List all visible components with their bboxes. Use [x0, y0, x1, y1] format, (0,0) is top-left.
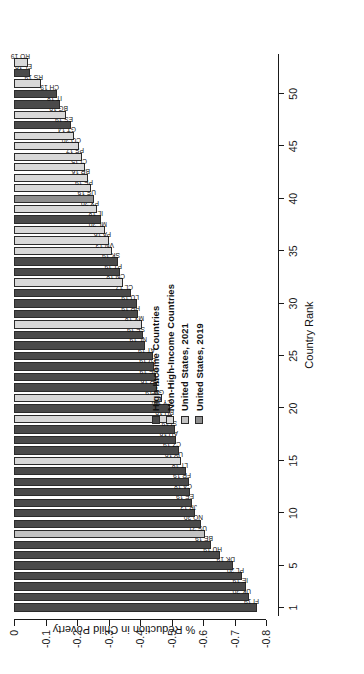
legend-label: United States, 2021 — [179, 323, 190, 411]
x-axis-tick — [278, 145, 284, 146]
bar-rect — [14, 331, 143, 339]
bar-rect — [14, 310, 138, 318]
bar-rect — [14, 457, 181, 465]
bar-rect — [14, 603, 257, 611]
x-axis-line — [278, 54, 279, 616]
legend-item-nonhigh: Non-High-Income Countries — [165, 284, 176, 424]
bar-rect — [14, 394, 162, 402]
legend-swatch-icon — [181, 416, 189, 424]
x-axis-tick — [278, 512, 284, 513]
x-axis-tick-label: 25 — [287, 350, 299, 362]
bar-rect — [14, 289, 131, 297]
bar-label: CH 19 — [40, 84, 59, 91]
x-axis-tick-label: 5 — [287, 563, 299, 569]
bar-label: RO 19 — [11, 53, 30, 60]
x-axis-title: Country Rank — [303, 54, 315, 616]
x-axis-tick — [278, 460, 284, 461]
bar-rect — [14, 341, 145, 349]
bar-rect — [14, 404, 170, 412]
x-axis-tick — [278, 607, 284, 608]
bar-rect — [14, 562, 233, 570]
bar-rect — [14, 299, 137, 307]
x-axis-tick — [278, 407, 284, 408]
bar-rect — [14, 320, 142, 328]
bar-rect — [14, 383, 157, 391]
x-axis-tick-label: 30 — [287, 298, 299, 310]
bar-rect — [14, 425, 175, 433]
legend-item-us2021: United States, 2021 — [179, 284, 190, 424]
legend-swatch-icon — [166, 416, 174, 424]
bar-rect — [14, 572, 242, 580]
x-axis-tick — [278, 565, 284, 566]
legend-swatch-icon — [152, 416, 160, 424]
bar-rect — [14, 362, 154, 370]
x-axis-tick-label: 20 — [287, 403, 299, 415]
y-axis-title: % Reduction in Child Poverty — [0, 624, 254, 636]
bar-rect — [14, 373, 156, 381]
x-axis-tick — [278, 93, 284, 94]
bar-rect — [14, 541, 211, 549]
x-axis-tick-label: 50 — [287, 88, 299, 100]
bar-rect — [14, 436, 176, 444]
bar-rect — [14, 582, 246, 590]
bar-rect — [14, 499, 192, 507]
x-axis-tick-label: 45 — [287, 140, 299, 152]
x-axis-tick — [278, 303, 284, 304]
bar-rect — [14, 488, 190, 496]
x-axis-tick — [278, 355, 284, 356]
bar-rect — [14, 467, 186, 475]
x-axis-tick — [278, 250, 284, 251]
y-axis-tick-label: -0.8 — [260, 630, 272, 648]
legend-label: United States, 2019 — [194, 323, 205, 411]
x-axis-tick-label: 35 — [287, 245, 299, 257]
legend-label: Non-High-Income Countries — [165, 284, 176, 411]
bar-rect — [14, 415, 172, 423]
bar-rect — [14, 520, 201, 528]
x-axis-tick-label: 40 — [287, 193, 299, 205]
figure-frame: FI 19UK 20IE 19PL 20DK 19HU 19BE 19US 21… — [0, 0, 364, 674]
bar-rect — [14, 593, 249, 601]
bar-rect — [14, 352, 153, 360]
bar-rect — [14, 551, 220, 559]
bar-series-layer: FI 19UK 20IE 19PL 20DK 19HU 19BE 19US 21… — [14, 54, 266, 616]
legend-item-us2019: United States, 2019 — [194, 284, 205, 424]
legend-label: High-Income Countries — [150, 306, 161, 411]
x-axis-tick-label: 15 — [287, 455, 299, 467]
x-axis-tick-label: 10 — [287, 507, 299, 519]
y-axis-tick — [266, 620, 267, 626]
legend-swatch-icon — [195, 416, 203, 424]
rotated-chart-canvas: FI 19UK 20IE 19PL 20DK 19HU 19BE 19US 21… — [0, 0, 364, 674]
chart-legend: High-Income CountriesNon-High-Income Cou… — [150, 284, 208, 424]
x-axis-tick-label: 1 — [287, 605, 299, 611]
bar-rect — [14, 509, 195, 517]
x-axis-tick — [278, 198, 284, 199]
bar-rect — [14, 446, 179, 454]
bar-rect — [14, 530, 205, 538]
legend-item-high: High-Income Countries — [150, 284, 161, 424]
bar-rect — [14, 478, 189, 486]
